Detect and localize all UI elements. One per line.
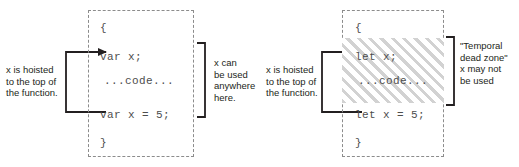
hoist-note-var: x is hoisted to the top of the function. xyxy=(6,64,84,99)
code-line-assignment-var: var x = 5; xyxy=(100,109,170,121)
code-line-body-var: ...code... xyxy=(104,75,174,87)
temporal-dead-zone-note: "Temporal dead zone" x may not be used xyxy=(460,40,518,86)
span-bracket-path xyxy=(197,43,205,117)
code-line-declaration-var: var x; xyxy=(100,51,142,63)
usable-note-var: x can be used anywhere here. xyxy=(214,57,258,103)
let-panel: x is hoisted to the top of the function.… xyxy=(260,0,519,167)
dead-zone-span-bracket-let xyxy=(445,36,459,106)
var-panel: x is hoisted to the top of the function.… xyxy=(0,0,259,167)
code-line-open-brace-var: { xyxy=(100,22,107,34)
code-line-close-brace-let: } xyxy=(355,137,362,149)
code-line-declaration-let: let x; xyxy=(355,51,397,63)
code-line-body-let: ...code... xyxy=(358,75,428,87)
code-line-close-brace-var: } xyxy=(100,137,107,149)
usable-span-bracket-var xyxy=(196,42,210,118)
figure-canvas: x is hoisted to the top of the function.… xyxy=(0,0,519,167)
hoist-note-let: x is hoisted to the top of the function. xyxy=(266,64,344,99)
code-line-assignment-let: let x = 5; xyxy=(355,109,425,121)
code-line-open-brace-let: { xyxy=(355,22,362,34)
span-bracket-path xyxy=(446,37,454,105)
temporal-dead-zone-hatch xyxy=(342,38,444,103)
